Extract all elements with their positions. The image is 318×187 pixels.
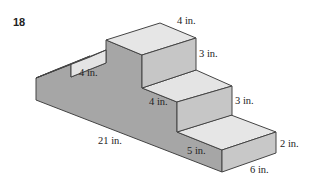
label-left-step: 4 in.: [79, 67, 98, 78]
label-right-height: 3 in.: [235, 95, 254, 106]
label-length: 21 in.: [98, 135, 122, 146]
label-bottom-step: 5 in.: [187, 145, 206, 156]
label-middle-step: 4 in.: [149, 96, 168, 107]
staircase-solid-figure: [0, 0, 318, 187]
label-top-height: 3 in.: [199, 48, 218, 59]
label-top-width: 4 in.: [177, 15, 196, 26]
label-depth: 6 in.: [250, 164, 269, 175]
label-end-height: 2 in.: [280, 138, 299, 149]
